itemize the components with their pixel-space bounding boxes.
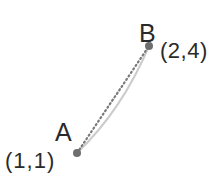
dotted-segment-a-to-b	[77, 46, 149, 153]
point-a-label: A	[55, 118, 72, 146]
diagram-canvas: A (1,1) B (2,4)	[0, 0, 216, 188]
point-a-coords: (1,1)	[5, 148, 55, 173]
point-b-coords: (2,4)	[160, 38, 208, 63]
point-a	[73, 149, 81, 157]
point-b-label: B	[139, 19, 156, 47]
